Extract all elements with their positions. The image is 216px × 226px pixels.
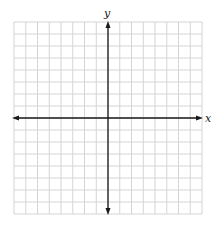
x-axis: x bbox=[12, 112, 212, 125]
coordinate-plane: x y bbox=[0, 0, 216, 226]
x-axis-label: x bbox=[205, 112, 212, 125]
y-axis: y bbox=[103, 7, 111, 215]
y-axis-label: y bbox=[103, 7, 111, 20]
x-axis-left-arrow-icon bbox=[12, 116, 19, 121]
